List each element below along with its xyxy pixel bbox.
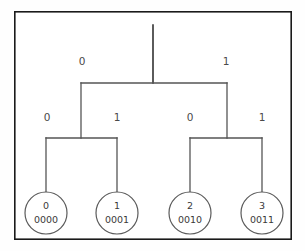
leaf-code-3: 0011	[250, 214, 274, 225]
edge-label-l0-left: 0	[79, 55, 86, 67]
leaf-symbol-1: 1	[114, 200, 120, 211]
leaf-symbol-2: 2	[187, 200, 193, 211]
leaf-node-3[interactable]: 3 0011	[241, 192, 283, 234]
leaf-node-2[interactable]: 2 0010	[169, 192, 211, 234]
edge-label-l1-d: 1	[259, 111, 266, 123]
edge-label-l1-c: 0	[187, 111, 194, 123]
tree-diagram-figure: 0 1 0 1 0 1 0 0000 1 0001 2 0010 3 0011	[0, 0, 305, 251]
leaf-code-1: 0001	[105, 214, 129, 225]
edge-label-l0-right: 1	[223, 55, 230, 67]
leaf-symbol-3: 3	[259, 200, 265, 211]
edge-label-l1-b: 1	[114, 111, 121, 123]
leaf-code-0: 0000	[34, 214, 58, 225]
leaf-node-1[interactable]: 1 0001	[96, 192, 138, 234]
leaf-code-2: 0010	[178, 214, 202, 225]
leaf-symbol-0: 0	[43, 200, 49, 211]
leaf-node-0[interactable]: 0 0000	[25, 192, 67, 234]
tree-diagram-canvas: 0 1 0 1 0 1 0 0000 1 0001 2 0010 3 0011	[0, 0, 305, 251]
edge-label-l1-a: 0	[44, 111, 51, 123]
